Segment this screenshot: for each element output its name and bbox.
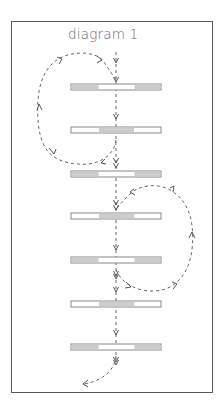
bar-6 <box>71 301 161 307</box>
diagram-canvas <box>0 0 219 410</box>
bar-2 <box>71 127 161 133</box>
bar-5 <box>71 257 161 263</box>
bar-7 <box>71 344 161 350</box>
bar-4 <box>71 213 161 219</box>
right-loop-arrow <box>116 186 193 291</box>
left-loop-arrow <box>38 53 116 164</box>
bar-1 <box>71 84 161 90</box>
right-loop-arrowheads <box>125 186 195 289</box>
bar-3 <box>71 171 161 177</box>
exit-arrow <box>84 356 116 384</box>
left-loop-arrowheads <box>37 56 106 164</box>
